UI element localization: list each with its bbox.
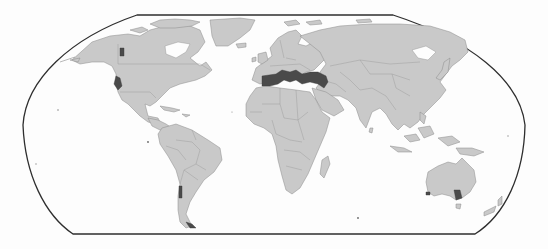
north-america [60, 18, 255, 132]
region-southwest-australia [426, 192, 430, 195]
oceania [426, 148, 502, 216]
south-america [158, 124, 222, 228]
world-map [0, 0, 548, 249]
region-central-chile [179, 186, 182, 198]
region-pacific-northwest [120, 48, 124, 56]
